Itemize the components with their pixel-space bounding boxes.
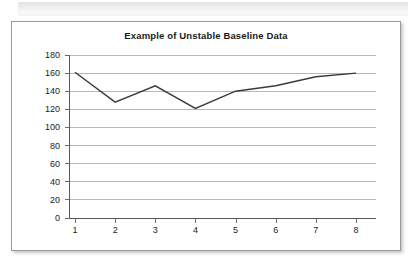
x-tick-label-4: 4	[193, 225, 198, 235]
x-axis-tick-marks	[69, 219, 376, 224]
y-tick-label-20: 20	[50, 195, 60, 205]
series-line-baseline	[75, 72, 356, 108]
x-tick-label-7: 7	[313, 225, 318, 235]
y-tick-label-180: 180	[45, 50, 60, 60]
scan-artifact-band	[18, 2, 408, 13]
y-axis-tick-labels: 020406080100120140160180	[12, 55, 60, 219]
y-tick-label-120: 120	[45, 104, 60, 114]
line-series-baseline	[69, 55, 376, 218]
x-tick-mark-4	[195, 219, 196, 223]
y-tick-label-100: 100	[45, 122, 60, 132]
y-tick-label-60: 60	[50, 159, 60, 169]
y-tick-label-160: 160	[45, 68, 60, 78]
y-tick-label-40: 40	[50, 177, 60, 187]
x-tick-label-2: 2	[113, 225, 118, 235]
x-tick-mark-7	[316, 219, 317, 223]
x-tick-mark-8	[356, 219, 357, 223]
x-tick-mark-3	[155, 219, 156, 223]
x-tick-label-1: 1	[72, 225, 77, 235]
x-tick-mark-1	[75, 219, 76, 223]
x-tick-mark-6	[276, 219, 277, 223]
y-tick-label-140: 140	[45, 86, 60, 96]
x-tick-label-6: 6	[273, 225, 278, 235]
y-tick-label-80: 80	[50, 141, 60, 151]
y-tick-label-0: 0	[55, 213, 60, 223]
chart-panel: Example of Unstable Baseline Data 020406…	[11, 21, 401, 251]
x-tick-mark-5	[236, 219, 237, 223]
x-tick-label-8: 8	[353, 225, 358, 235]
chart-title: Example of Unstable Baseline Data	[12, 30, 400, 41]
x-tick-mark-2	[115, 219, 116, 223]
x-axis-tick-labels: 12345678	[69, 225, 376, 239]
x-tick-label-5: 5	[233, 225, 238, 235]
x-tick-label-3: 3	[153, 225, 158, 235]
